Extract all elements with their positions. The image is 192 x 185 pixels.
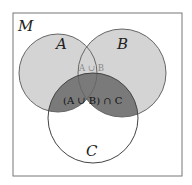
set-a-label: A (54, 35, 67, 53)
set-b-label: B (116, 35, 128, 53)
union-ab-intersect-c-label: (A ∪ B) ∩ C (63, 95, 123, 106)
venn-diagram: M A B C A ∪ B (A ∪ B) ∩ C (0, 0, 192, 185)
set-c-label: C (86, 142, 98, 160)
union-ab-label: A ∪ B (78, 63, 104, 73)
universe-label: M (17, 17, 34, 35)
